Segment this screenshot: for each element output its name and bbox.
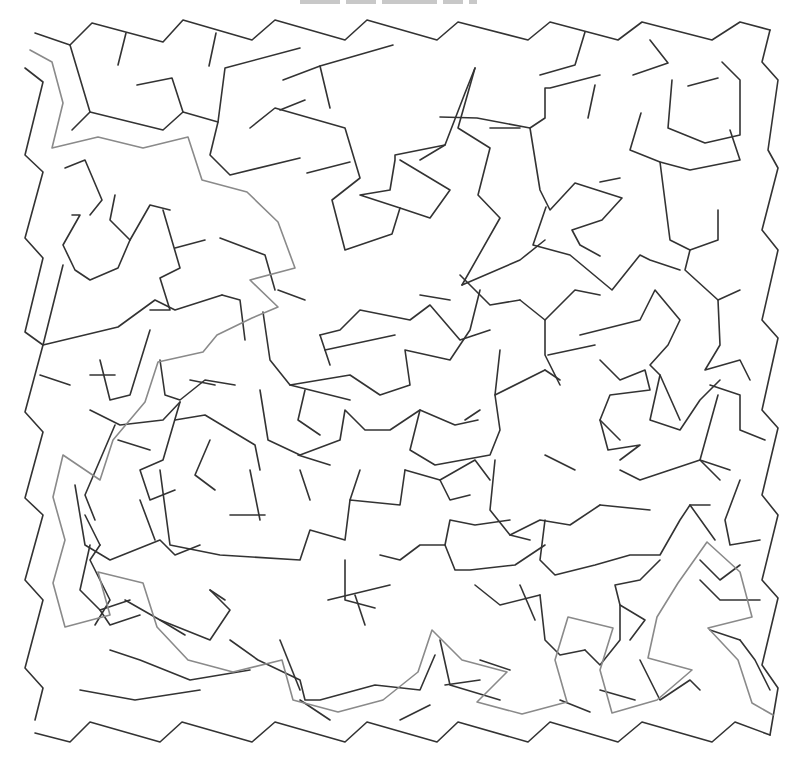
solution-path — [30, 50, 773, 715]
maze-canvas — [0, 0, 791, 764]
maze-walls — [25, 20, 778, 742]
